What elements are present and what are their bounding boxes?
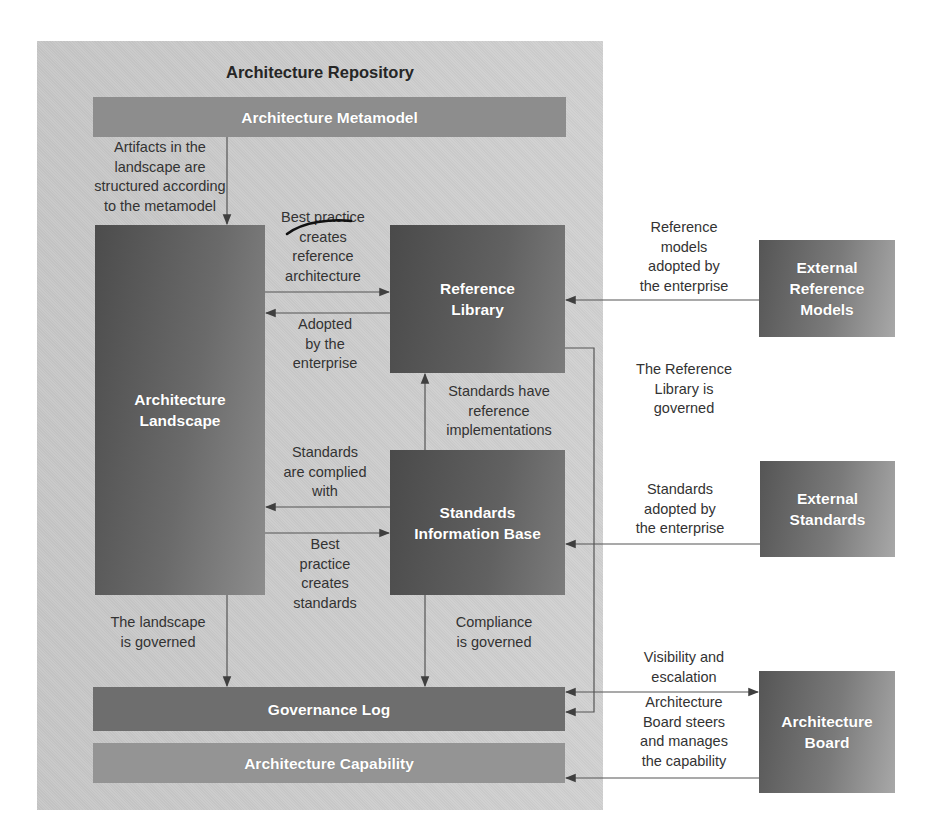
label-adopted-by-enterprise: Adopted by the enterprise [270, 315, 380, 374]
label-standards-adopted: Standards adopted by the enterprise [615, 480, 745, 539]
label-reference-models-adopted: Reference models adopted by the enterpri… [619, 218, 749, 297]
reference-library-box: Reference Library [390, 225, 565, 373]
label-standards-complied: Standards are complied with [265, 443, 385, 502]
label-artifacts-structured: Artifacts in the landscape are structure… [75, 138, 245, 217]
architecture-board-box: Architecture Board [759, 671, 895, 793]
label-board-steers: Architecture Board steers and manages th… [619, 693, 749, 772]
governance-log-box: Governance Log [93, 687, 565, 731]
label-visibility-escalation: Visibility and escalation [619, 648, 749, 687]
label-standards-have-reference: Standards have reference implementations [419, 382, 579, 441]
architecture-capability-box: Architecture Capability [93, 743, 565, 783]
standards-information-base-box: Standards Information Base [390, 450, 565, 595]
external-standards-box: External Standards [760, 461, 895, 557]
label-landscape-governed: The landscape is governed [98, 613, 218, 652]
label-compliance-governed: Compliance is governed [434, 613, 554, 652]
repository-title: Architecture Repository [37, 63, 603, 82]
architecture-metamodel-box: Architecture Metamodel [93, 97, 566, 137]
label-best-practice-standards: Best practice creates standards [270, 535, 380, 614]
label-reference-library-governed: The Reference Library is governed [619, 360, 749, 419]
label-best-practice-reference: Best practice creates reference architec… [263, 208, 383, 287]
architecture-landscape-box: Architecture Landscape [95, 225, 265, 595]
external-reference-models-box: External Reference Models [759, 240, 895, 337]
